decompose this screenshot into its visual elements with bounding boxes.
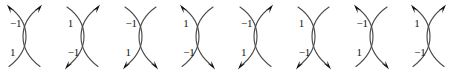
crossing-label-bottom: −1 <box>299 47 310 58</box>
arrowhead-bottom-right-icon <box>208 61 215 70</box>
arrowhead-top-left-icon <box>411 4 418 13</box>
crossing-label-top: −1 <box>126 18 137 29</box>
crossing-diagram-row: −111−1−111−1−111−1−111−1 <box>0 0 462 73</box>
crossing-label-bottom: 1 <box>126 47 131 58</box>
crossing-label-top: 1 <box>414 18 419 29</box>
arrowhead-bottom-left-icon <box>122 61 129 70</box>
arrowhead-bottom-right-icon <box>324 61 331 70</box>
crossing-label-bottom: −1 <box>68 47 79 58</box>
crossing-diagram: 1−1 <box>58 0 116 73</box>
crossing-strands <box>116 0 174 73</box>
crossing-label-bottom: 1 <box>241 47 246 58</box>
crossing-diagram: −11 <box>116 0 174 73</box>
arrowhead-top-right-icon <box>266 4 273 13</box>
crossing-label-bottom: 1 <box>10 47 15 58</box>
crossing-label-bottom: 1 <box>357 47 362 58</box>
crossing-strands <box>347 0 405 73</box>
arrowhead-top-left-icon <box>180 4 187 13</box>
crossing-label-bottom: −1 <box>183 47 194 58</box>
arrowhead-top-right-icon <box>439 4 446 13</box>
crossing-strands <box>231 0 289 73</box>
crossing-label-bottom: −1 <box>414 47 425 58</box>
crossing-label-top: −1 <box>10 18 21 29</box>
crossing-label-top: −1 <box>241 18 252 29</box>
crossing-diagram: −11 <box>0 0 58 73</box>
arrowhead-top-left-icon <box>7 4 14 13</box>
arrowhead-top-right-icon <box>93 4 100 13</box>
crossing-diagram: −11 <box>347 0 405 73</box>
crossing-strands <box>404 0 462 73</box>
arrowhead-bottom-left-icon <box>65 61 72 70</box>
arrowhead-top-right-icon <box>35 4 42 13</box>
crossing-strands <box>173 0 231 73</box>
crossing-diagram: 1−1 <box>404 0 462 73</box>
crossing-label-top: 1 <box>183 18 188 29</box>
crossing-diagram: 1−1 <box>289 0 347 73</box>
crossing-diagram: −11 <box>231 0 289 73</box>
crossing-diagram: 1−1 <box>173 0 231 73</box>
arrowhead-top-left-icon <box>353 4 360 13</box>
arrowhead-bottom-right-icon <box>381 61 388 70</box>
crossing-strands <box>0 0 58 73</box>
crossing-label-top: −1 <box>357 18 368 29</box>
arrowhead-bottom-right-icon <box>150 61 157 70</box>
crossing-strands <box>58 0 116 73</box>
crossing-strands <box>289 0 347 73</box>
crossing-label-top: 1 <box>299 18 304 29</box>
arrowhead-bottom-left-icon <box>296 61 303 70</box>
arrowhead-bottom-left-icon <box>238 61 245 70</box>
crossing-label-top: 1 <box>68 18 73 29</box>
